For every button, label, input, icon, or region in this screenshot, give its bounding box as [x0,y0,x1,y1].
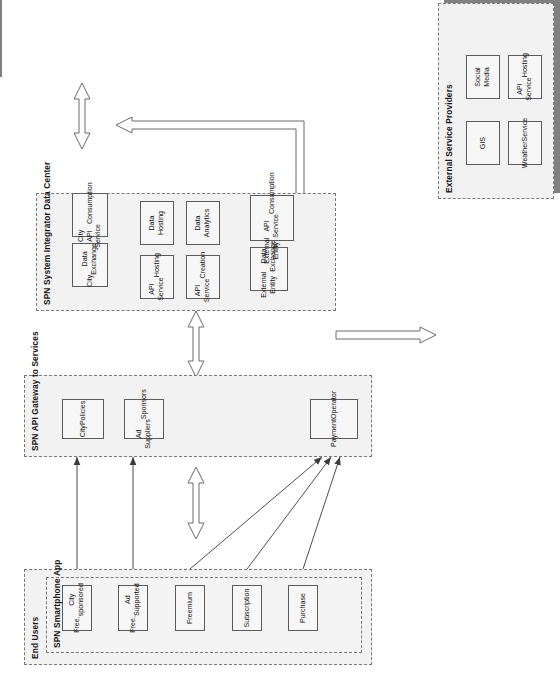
node-dc-external-entity-api-service-consumption[interactable]: External EntityAPI ServiceConsumption [250,195,294,241]
developers-shadow [0,0,2,77]
group-external-service-providers [438,3,554,199]
node-purchase[interactable]: Purchase [288,585,318,631]
group-data-center-title: SPN System Integrator Data Center [42,162,52,305]
node-provider-social-media[interactable]: Social Media [466,55,500,99]
node-free-ad-supported[interactable]: Free,Ad Supported [118,585,148,631]
node-freemium[interactable]: Freemium [175,585,205,631]
group-external-service-providers-title: External Service Providers [444,84,454,193]
group-smartphone-app-title: SPN Smartphone App [52,559,62,648]
node-dc-city-api-service-consumption[interactable]: City API ServiceConsumption [72,193,108,237]
node-dc-api-service-creation[interactable]: API ServiceCreation [186,255,220,299]
group-api-gateway-title: SPN API Gateway to Services [30,331,40,451]
node-free-city-sponsored[interactable]: Free,City sponsored [62,585,92,631]
node-provider-gis[interactable]: GIS [466,121,500,165]
node-dc-data-hosting[interactable]: Data Hosting [140,201,174,245]
node-dc-data-analytics[interactable]: Data Analytics [186,201,220,245]
node-payment-operator[interactable]: PaymentOperator [310,399,358,439]
node-ad-suppliers-sponsors[interactable]: Ad SuppliersSponsors [124,399,164,439]
group-end-users-title: End Users [30,617,40,659]
node-dc-city-data-exchange[interactable]: CityData Exchange [72,243,108,287]
node-provider-weather-service[interactable]: WeatherService [508,121,542,165]
node-subscription[interactable]: Subscription [232,585,262,631]
node-dc-api-service-hosting[interactable]: API ServiceHosting [140,255,174,299]
node-city-policies[interactable]: CityPolicies [62,399,104,439]
node-provider-api-service-hosting[interactable]: API ServiceHosting [508,55,542,99]
